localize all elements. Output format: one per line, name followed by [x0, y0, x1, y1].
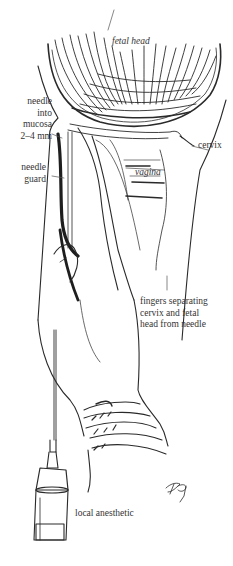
label-needle-guard: needle guard [6, 162, 46, 185]
cervix-drawing [68, 124, 182, 270]
label-needle-line1: needle [6, 96, 52, 108]
syringe-drawing [34, 330, 68, 540]
label-needle-line4: 2–4 mm [6, 131, 52, 143]
label-fetal-head: fetal head [112, 36, 150, 48]
leader-lines [52, 10, 208, 290]
anatomical-drawing [0, 0, 233, 566]
label-guard-line1: needle [6, 162, 46, 174]
illustration-canvas: fetal head needle into mucosa 2–4 mm nee… [0, 0, 233, 566]
label-cervix: cervix [198, 140, 222, 152]
label-needle-line3: mucosa [6, 119, 52, 131]
label-vagina: vagina [135, 167, 161, 179]
label-needle-into-mucosa: needle into mucosa 2–4 mm [6, 96, 52, 142]
label-fingers-separating: fingers separating cervix and fetal head… [140, 296, 208, 331]
label-fingers-line2: cervix and fetal [140, 308, 208, 320]
label-fingers-line1: fingers separating [140, 296, 208, 308]
artist-signature [166, 483, 186, 502]
label-guard-line2: guard [6, 174, 46, 186]
label-local-anesthetic: local anesthetic [75, 508, 134, 520]
label-fingers-line3: head from needle [140, 319, 208, 331]
label-needle-line2: into [6, 108, 52, 120]
